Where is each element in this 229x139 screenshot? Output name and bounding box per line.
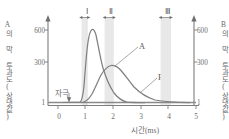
curve-a xyxy=(62,29,145,102)
right-y-axis xyxy=(191,15,197,106)
left-y-axis xyxy=(45,15,51,106)
stimulus-arrow-icon xyxy=(67,93,71,102)
leader-line-a xyxy=(115,47,138,66)
shaded-band-i xyxy=(82,18,89,105)
band-hatch xyxy=(83,18,170,105)
x-axis xyxy=(48,106,199,110)
permeability-chart xyxy=(0,0,229,139)
leader-line-b xyxy=(140,78,157,93)
